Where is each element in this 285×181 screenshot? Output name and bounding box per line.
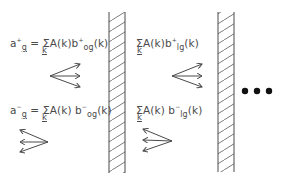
sum-index: k xyxy=(137,45,142,55)
hatched-wall-2 xyxy=(218,12,234,172)
ellipsis-dots-icon xyxy=(242,88,272,94)
arrow-fan-forward-right-icon xyxy=(172,64,202,87)
diagram-canvas: a+g = ΣA(k)b+og(k) k a−g = ΣA(k) b−og(k)… xyxy=(0,0,285,181)
arrow-fan-backward-right-icon xyxy=(143,129,172,151)
hatched-wall-1 xyxy=(109,12,125,173)
sum-index: k xyxy=(137,112,142,122)
arrow-fan-backward-left-icon xyxy=(20,130,48,152)
equation-b-minus-lg: ΣA(k) b−lg(k) xyxy=(136,101,202,120)
equation-a-plus: a+g = ΣA(k)b+og(k) xyxy=(10,34,108,53)
sum-index: k xyxy=(42,112,47,122)
arrow-fan-forward-left-icon xyxy=(50,64,80,87)
sum-index: k xyxy=(42,45,47,55)
diagram-graphics xyxy=(0,0,285,181)
equation-b-plus-lg: ΣA(k)b+lg(k) xyxy=(136,34,199,53)
equation-a-minus: a−g = ΣA(k) b−og(k) xyxy=(10,101,112,120)
